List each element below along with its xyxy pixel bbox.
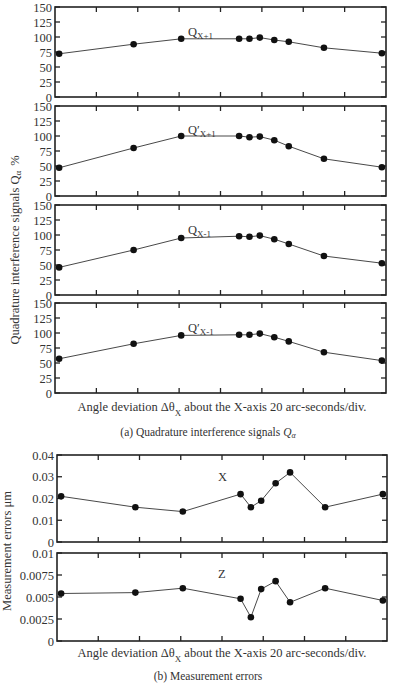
data-point bbox=[271, 334, 278, 341]
section-a-x-axis-title: Angle deviation ΔθXabout the X-axis 20 a… bbox=[78, 400, 367, 418]
y-tick-label: 75 bbox=[40, 244, 53, 258]
panel-q-x-1: 0255075100125150QX+1 bbox=[33, 1, 386, 105]
series-line bbox=[59, 334, 382, 361]
data-point bbox=[58, 590, 65, 597]
y-tick-label: 0 bbox=[48, 635, 54, 649]
section-a-caption: (a) Quadrature interference signals Qα bbox=[120, 426, 296, 440]
data-point bbox=[257, 330, 264, 337]
y-tick-label: 150 bbox=[33, 297, 52, 311]
data-point bbox=[322, 585, 329, 592]
data-point bbox=[321, 45, 328, 52]
plot-frame bbox=[57, 455, 387, 542]
data-point bbox=[246, 36, 253, 43]
y-tick-label: 0.005 bbox=[26, 591, 54, 605]
y-tick-label: 125 bbox=[33, 312, 52, 326]
series-label: Q′X+1 bbox=[188, 123, 216, 139]
y-tick-label: 125 bbox=[33, 115, 52, 129]
data-point bbox=[178, 235, 185, 242]
data-point bbox=[246, 234, 253, 241]
svg-text:Quadrature interference signal: Quadrature interference signals Qα% bbox=[8, 155, 23, 344]
data-point bbox=[380, 597, 387, 604]
data-point bbox=[321, 253, 328, 260]
y-tick-label: 25 bbox=[40, 274, 53, 288]
section-b-y-axis-title: Measurement errors μm bbox=[0, 491, 14, 611]
series-line bbox=[59, 38, 382, 54]
data-point bbox=[56, 264, 63, 271]
data-point bbox=[56, 51, 63, 58]
data-point bbox=[248, 504, 255, 511]
svg-text:Measurement errors μm: Measurement errors μm bbox=[0, 491, 14, 611]
y-tick-label: 100 bbox=[33, 327, 52, 341]
y-tick-label: 0.01 bbox=[32, 547, 54, 561]
y-tick-label: 50 bbox=[40, 357, 53, 371]
data-point bbox=[257, 34, 264, 41]
data-point bbox=[132, 504, 139, 511]
data-point bbox=[258, 497, 265, 504]
data-point bbox=[236, 332, 243, 339]
data-point bbox=[285, 143, 292, 150]
data-point bbox=[285, 241, 292, 248]
data-point bbox=[271, 236, 278, 243]
data-point bbox=[132, 589, 139, 596]
panel-z: 00.00250.0050.00750.01Z bbox=[20, 547, 387, 649]
y-tick-label: 0.0025 bbox=[20, 613, 54, 627]
data-point bbox=[380, 491, 387, 498]
figure: 0255075100125150QX+10255075100125150Q′X+… bbox=[0, 0, 395, 690]
data-point bbox=[379, 260, 386, 267]
y-tick-label: 150 bbox=[33, 100, 52, 114]
data-point bbox=[58, 493, 65, 500]
y-tick-label: 50 bbox=[40, 61, 53, 75]
y-tick-label: 125 bbox=[33, 16, 52, 30]
y-tick-label: 0.03 bbox=[32, 470, 54, 484]
data-point bbox=[322, 504, 329, 511]
data-point bbox=[258, 586, 265, 593]
data-point bbox=[287, 469, 294, 476]
y-tick-label: 0.01 bbox=[32, 514, 54, 528]
data-point bbox=[56, 165, 63, 172]
series-label: Z bbox=[218, 567, 226, 581]
data-point bbox=[272, 480, 279, 487]
data-point bbox=[237, 491, 244, 498]
data-point bbox=[285, 338, 292, 345]
data-point bbox=[178, 332, 185, 339]
y-tick-label: 0.02 bbox=[32, 492, 54, 506]
plot-frame bbox=[55, 106, 386, 196]
series-label: QX+1 bbox=[188, 25, 213, 41]
y-tick-label: 50 bbox=[40, 160, 53, 174]
data-point bbox=[237, 595, 244, 602]
y-tick-label: 75 bbox=[40, 145, 53, 159]
y-tick-label: 75 bbox=[40, 46, 53, 60]
data-point bbox=[180, 508, 187, 515]
y-tick-label: 25 bbox=[40, 76, 53, 90]
data-point bbox=[257, 133, 264, 140]
y-tick-label: 25 bbox=[40, 175, 53, 189]
y-tick-label: 0 bbox=[46, 387, 52, 401]
data-point bbox=[248, 614, 255, 621]
data-point bbox=[321, 156, 328, 163]
data-point bbox=[379, 164, 386, 171]
y-tick-label: 0.04 bbox=[32, 449, 55, 463]
data-point bbox=[271, 37, 278, 44]
data-point bbox=[130, 341, 137, 348]
data-point bbox=[130, 145, 137, 152]
series-label: X bbox=[218, 470, 227, 484]
series-label: QX-1 bbox=[188, 223, 211, 239]
y-tick-label: 125 bbox=[33, 214, 52, 228]
y-tick-label: 25 bbox=[40, 372, 53, 386]
plot-frame bbox=[55, 205, 386, 295]
series-label: Q′X-1 bbox=[188, 321, 214, 337]
data-point bbox=[321, 349, 328, 356]
data-point bbox=[285, 39, 292, 46]
data-point bbox=[130, 41, 137, 48]
y-tick-label: 150 bbox=[33, 199, 52, 213]
data-point bbox=[178, 36, 185, 43]
data-point bbox=[236, 133, 243, 140]
y-tick-label: 50 bbox=[40, 259, 53, 273]
data-point bbox=[180, 585, 187, 592]
data-point bbox=[178, 133, 185, 140]
chart-panels: 0255075100125150QX+10255075100125150Q′X+… bbox=[20, 1, 387, 649]
y-tick-label: 75 bbox=[40, 342, 53, 356]
data-point bbox=[236, 36, 243, 43]
data-point bbox=[56, 356, 63, 363]
data-point bbox=[379, 50, 386, 57]
